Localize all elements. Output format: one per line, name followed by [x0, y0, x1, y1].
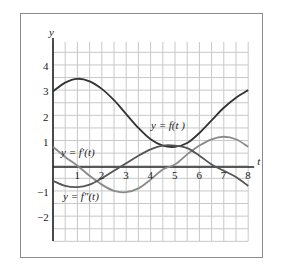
label-f-prime: y = f′(t): [60, 146, 95, 159]
x-tick-label: 5: [172, 169, 178, 181]
y-tick-label: −1: [37, 186, 49, 198]
y-tick-label: 4: [43, 60, 49, 72]
x-tick-label: 7: [221, 169, 227, 181]
y-axis-label: y: [48, 26, 54, 38]
label-f: y = f(t ): [150, 119, 185, 132]
y-tick-label: 3: [43, 85, 49, 97]
label-f-double-prime: y = f″(t): [62, 190, 99, 203]
y-tick-label: −2: [37, 211, 49, 223]
x-tick-label: 8: [245, 169, 251, 181]
x-tick-label: 1: [74, 169, 80, 181]
y-tick-label: 2: [43, 111, 49, 123]
grid: [53, 42, 248, 241]
chart-plot: yt123456784321−1−2y = f(t )y = f′(t)y = …: [0, 0, 286, 268]
labels: yt123456784321−1−2y = f(t )y = f′(t)y = …: [37, 26, 261, 223]
t-axis-label: t: [257, 155, 261, 167]
x-tick-label: 6: [196, 169, 202, 181]
y-tick-label: 1: [43, 136, 49, 148]
x-tick-label: 3: [123, 169, 129, 181]
x-tick-label: 4: [148, 169, 154, 181]
x-tick-label: 2: [99, 169, 105, 181]
